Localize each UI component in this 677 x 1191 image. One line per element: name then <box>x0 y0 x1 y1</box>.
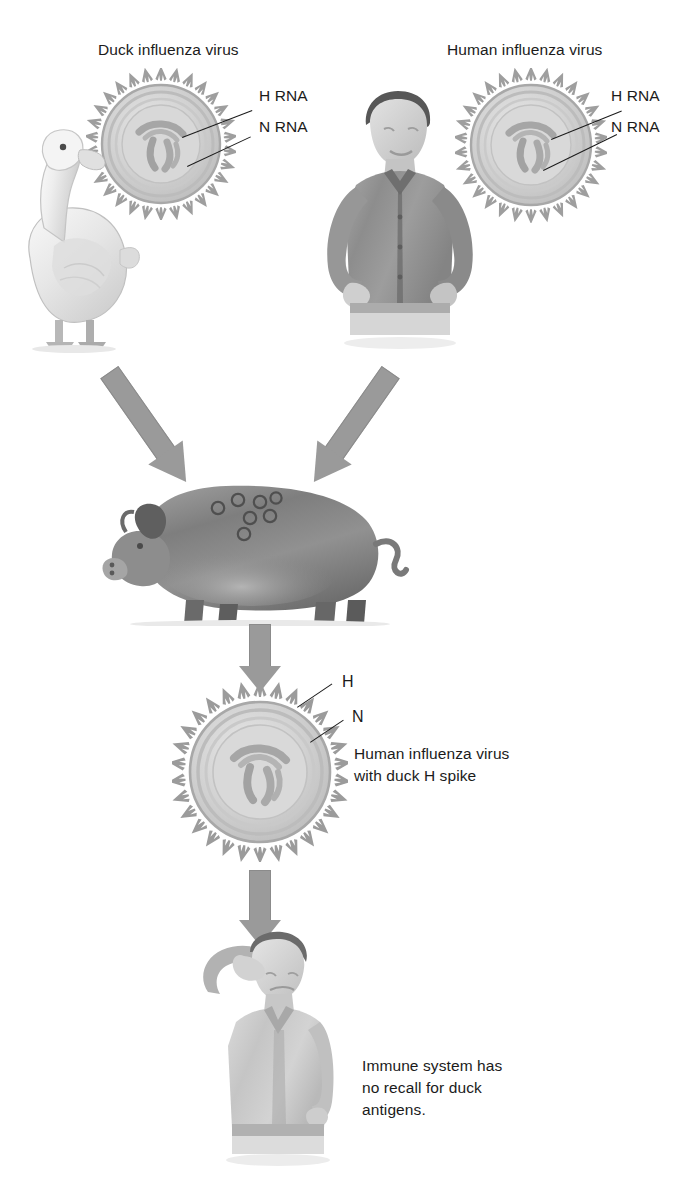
outcome-line3: antigens. <box>362 1100 426 1119</box>
human-virus-title: Human influenza virus <box>447 40 602 59</box>
duck-icon <box>8 118 143 353</box>
hybrid-caption-line2: with duck H spike <box>354 766 476 785</box>
influenza-antigenic-shift-figure: Duck influenza virus Human influenza vir… <box>0 0 677 1191</box>
duck-virus-title: Duck influenza virus <box>98 40 239 59</box>
outcome-line2: no recall for duck <box>362 1078 482 1097</box>
outcome-line1: Immune system has <box>362 1056 502 1075</box>
hybrid-caption-line1: Human influenza virus <box>354 744 509 763</box>
pig-icon <box>100 466 422 626</box>
hybrid-n-label: N <box>352 707 364 726</box>
human-n-rna-label: N RNA <box>611 117 660 136</box>
hybrid-virion-icon <box>172 682 348 862</box>
hybrid-h-label: H <box>342 672 354 691</box>
arrow-pig-to-virion <box>236 624 284 690</box>
standing-man-icon <box>298 85 503 363</box>
sick-man-icon <box>196 930 356 1172</box>
human-h-rna-label: H RNA <box>611 86 660 105</box>
